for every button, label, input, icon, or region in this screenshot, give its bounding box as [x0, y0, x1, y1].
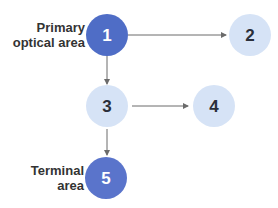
node-4: 4 — [193, 85, 235, 127]
node-5: 5 — [85, 157, 127, 199]
primary-label-line1: Primary — [13, 20, 85, 35]
node-2-label: 2 — [245, 26, 254, 45]
primary-optical-area-label: Primary optical area — [13, 20, 85, 50]
terminal-label-line1: Terminal — [31, 163, 84, 178]
node-1: 1 — [86, 14, 128, 56]
node-5-label: 5 — [101, 169, 110, 188]
node-3: 3 — [86, 85, 128, 127]
primary-label-line2: optical area — [13, 35, 85, 50]
terminal-area-label: Terminal area — [31, 163, 84, 193]
node-3-label: 3 — [102, 97, 111, 116]
terminal-label-line2: area — [31, 178, 84, 193]
node-1-label: 1 — [102, 26, 111, 45]
node-4-label: 4 — [209, 97, 219, 116]
node-2: 2 — [229, 14, 271, 56]
